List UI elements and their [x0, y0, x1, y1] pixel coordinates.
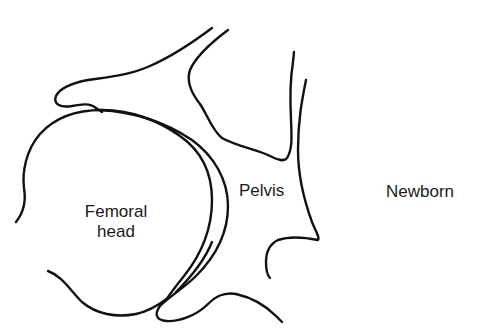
- pelvis-notch-outline: [189, 30, 294, 160]
- acetabular-inner-line: [176, 242, 212, 292]
- pelvis-label: Pelvis: [239, 181, 284, 201]
- femoral-head-label-line2: head: [78, 222, 154, 242]
- age-label: Newborn: [386, 182, 454, 202]
- femoral-head-label-line1: Femoral: [78, 202, 154, 222]
- femoral-head-label: Femoral head: [78, 202, 154, 242]
- hip-joint-diagram: [0, 0, 478, 334]
- pelvis-upper-left-outline: [55, 28, 212, 112]
- femoral-head-bottom-outline: [48, 271, 168, 316]
- pelvis-right-outline: [266, 80, 319, 278]
